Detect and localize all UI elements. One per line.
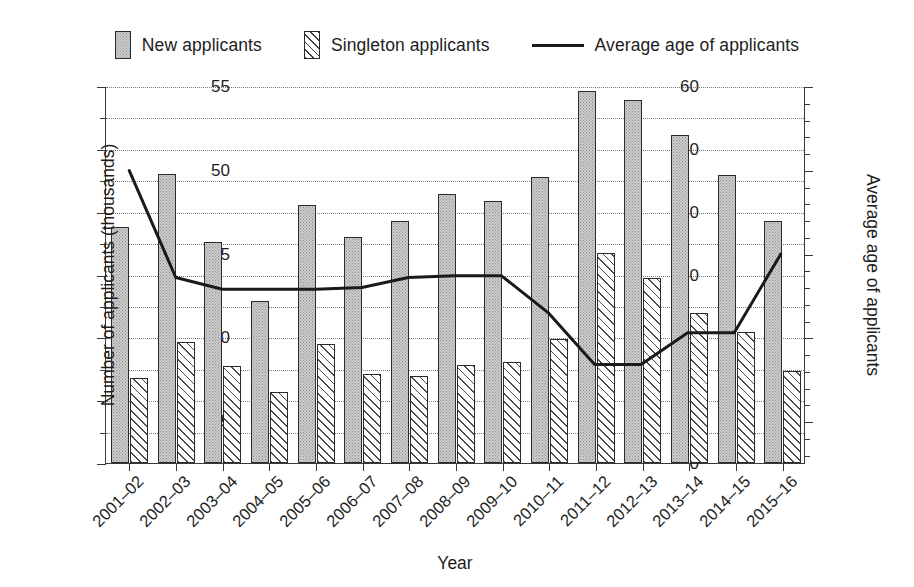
- legend-item-new-applicants: New applicants: [115, 31, 262, 59]
- x-axis-title: Year: [105, 553, 805, 574]
- y2-tick-minor: [804, 188, 810, 189]
- bar-singleton-applicants: [223, 366, 241, 463]
- bar-new-applicants: [764, 221, 782, 463]
- bar-new-applicants: [484, 201, 502, 463]
- y2-tick-major: [804, 255, 813, 256]
- y2-tick-minor: [804, 238, 810, 239]
- y2-tick-minor: [804, 405, 810, 406]
- bar-new-applicants: [624, 100, 642, 463]
- y2-tick-minor: [804, 137, 810, 138]
- bar-singleton-applicants: [363, 374, 381, 463]
- legend-label: New applicants: [142, 35, 262, 56]
- y2-tick-minor: [804, 372, 810, 373]
- bar-new-applicants: [718, 175, 736, 463]
- plot-area: 0102030405060 3540455055 Number of appli…: [105, 87, 805, 464]
- bar-new-applicants: [531, 177, 549, 463]
- bar-new-applicants: [578, 91, 596, 463]
- y2-tick-minor: [804, 439, 810, 440]
- chart-legend: New applicants Singleton applicants Aver…: [0, 28, 914, 62]
- x-axis-tick-labels: 2001–022002–032003–042004–052005–062006–…: [105, 464, 805, 554]
- y-axis-left-title: Number of applicants (thousands): [98, 85, 119, 465]
- y2-tick-minor: [804, 121, 810, 122]
- legend-item-singleton-applicants: Singleton applicants: [304, 31, 490, 59]
- y2-tick-major: [804, 422, 813, 423]
- bar-new-applicants: [204, 242, 222, 463]
- bar-hatched-swatch-icon: [304, 31, 320, 59]
- chart-figure: New applicants Singleton applicants Aver…: [0, 0, 914, 587]
- y2-tick-minor: [804, 322, 810, 323]
- bar-new-applicants: [391, 221, 409, 463]
- y2-tick-major: [804, 338, 813, 339]
- bar-singleton-applicants: [177, 342, 195, 463]
- y2-tick-minor: [804, 456, 810, 457]
- y2-tick-minor: [804, 154, 810, 155]
- bar-singleton-applicants: [457, 365, 475, 463]
- bar-singleton-applicants: [130, 378, 148, 463]
- y2-tick-major: [804, 87, 813, 88]
- bar-singleton-applicants: [503, 362, 521, 463]
- line-swatch-icon: [532, 44, 584, 47]
- y2-tick-minor: [804, 271, 810, 272]
- y2-tick-minor: [804, 104, 810, 105]
- bar-group-container: [106, 87, 804, 463]
- bar-new-applicants: [344, 237, 362, 463]
- bar-singleton-applicants: [410, 376, 428, 463]
- bar-singleton-applicants: [270, 392, 288, 463]
- legend-label: Singleton applicants: [331, 35, 490, 56]
- y2-tick-minor: [804, 389, 810, 390]
- bar-singleton-applicants: [550, 339, 568, 463]
- bar-singleton-applicants: [737, 332, 755, 463]
- bar-new-applicants: [158, 174, 176, 463]
- bar-new-applicants: [671, 135, 689, 463]
- bar-new-applicants: [298, 205, 316, 463]
- y2-tick-minor: [804, 221, 810, 222]
- legend-label: Average age of applicants: [595, 35, 800, 56]
- y2-tick-minor: [804, 355, 810, 356]
- y2-tick-minor: [804, 204, 810, 205]
- bar-dotted-swatch-icon: [115, 31, 131, 59]
- bar-singleton-applicants: [317, 344, 335, 463]
- y2-tick-minor: [804, 288, 810, 289]
- bar-singleton-applicants: [643, 278, 661, 463]
- bar-new-applicants: [438, 194, 456, 463]
- y2-tick-major: [804, 171, 813, 172]
- legend-item-average-age: Average age of applicants: [532, 35, 800, 56]
- bar-singleton-applicants: [690, 313, 708, 463]
- bar-singleton-applicants: [597, 253, 615, 463]
- bar-singleton-applicants: [783, 371, 801, 463]
- y2-tick-minor: [804, 305, 810, 306]
- y-axis-right-title: Average age of applicants: [862, 85, 883, 465]
- bar-new-applicants: [251, 301, 269, 463]
